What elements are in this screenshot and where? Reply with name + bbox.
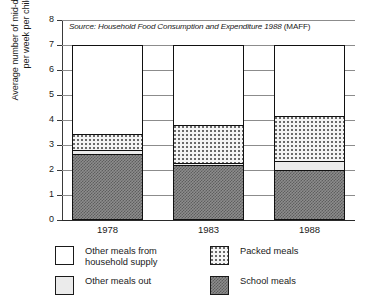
y-tick-8 (57, 20, 62, 21)
bar-segment-other-meals-out-1988[interactable] (274, 161, 345, 170)
bar-segment-other-meals-out-1978[interactable] (72, 150, 143, 154)
chart-legend: Other meals from household supply Packed… (55, 246, 355, 302)
x-axis-label-1978: 1978 (72, 224, 143, 235)
bar-segment-school-meals-1988[interactable] (274, 170, 345, 220)
y-tick-7 (57, 45, 62, 46)
y-tick-label-0: 0 (38, 214, 54, 224)
y-tick-1 (57, 195, 62, 196)
y-tick-label-8: 8 (38, 14, 54, 24)
school-meals-swatch (210, 276, 229, 295)
y-tick-label-5: 5 (38, 89, 54, 99)
legend-label-household-supply: Other meals from household supply (85, 246, 157, 268)
y-tick-4 (57, 120, 62, 121)
legend-item-school-meals[interactable]: School meals (210, 276, 296, 295)
legend-item-packed-meals[interactable]: Packed meals (210, 246, 298, 265)
y-tick-2 (57, 170, 62, 171)
bar-segment-household-supply-1988[interactable] (274, 45, 345, 116)
gridline-0 (62, 220, 355, 221)
legend-item-other-meals-out[interactable]: Other meals out (55, 276, 151, 295)
y-tick-3 (57, 145, 62, 146)
x-axis-label-1983: 1983 (173, 224, 244, 235)
bar-segment-other-meals-out-1983[interactable] (173, 163, 244, 166)
bar-segment-school-meals-1978[interactable] (72, 154, 143, 220)
x-axis-label-1988: 1988 (274, 224, 345, 235)
bar-segment-packed-meals-1983[interactable] (173, 125, 244, 163)
bar-segment-household-supply-1983[interactable] (173, 45, 244, 125)
y-tick-label-3: 3 (38, 139, 54, 149)
y-tick-6 (57, 70, 62, 71)
packed-meals-swatch (210, 246, 229, 265)
bar-group-1978 (72, 20, 143, 220)
chart-figure: Average number of mid-day meals per week… (0, 0, 368, 307)
household-supply-swatch (55, 246, 74, 265)
bar-segment-household-supply-1978[interactable] (72, 45, 143, 134)
legend-label-packed-meals: Packed meals (240, 246, 298, 257)
legend-label-other-meals-out: Other meals out (85, 276, 151, 287)
y-tick-0 (57, 220, 62, 221)
bar-segment-packed-meals-1988[interactable] (274, 116, 345, 161)
y-tick-label-7: 7 (38, 39, 54, 49)
y-tick-label-2: 2 (38, 164, 54, 174)
bar-segment-school-meals-1983[interactable] (173, 165, 244, 220)
legend-item-household-supply[interactable]: Other meals from household supply (55, 246, 157, 268)
bar-group-1988 (274, 20, 345, 220)
bar-group-1983 (173, 20, 244, 220)
legend-label-school-meals: School meals (240, 276, 296, 287)
y-axis-title-line-2: per week per child (21, 0, 32, 68)
y-axis-title-line-1: Average number of mid-day meals (10, 0, 21, 101)
y-axis-title: Average number of mid-day meals per week… (7, 0, 35, 137)
y-tick-5 (57, 95, 62, 96)
y-tick-label-1: 1 (38, 189, 54, 199)
y-tick-label-6: 6 (38, 64, 54, 74)
y-tick-label-4: 4 (38, 114, 54, 124)
other-meals-out-swatch (55, 276, 74, 295)
bar-segment-packed-meals-1978[interactable] (72, 134, 143, 150)
